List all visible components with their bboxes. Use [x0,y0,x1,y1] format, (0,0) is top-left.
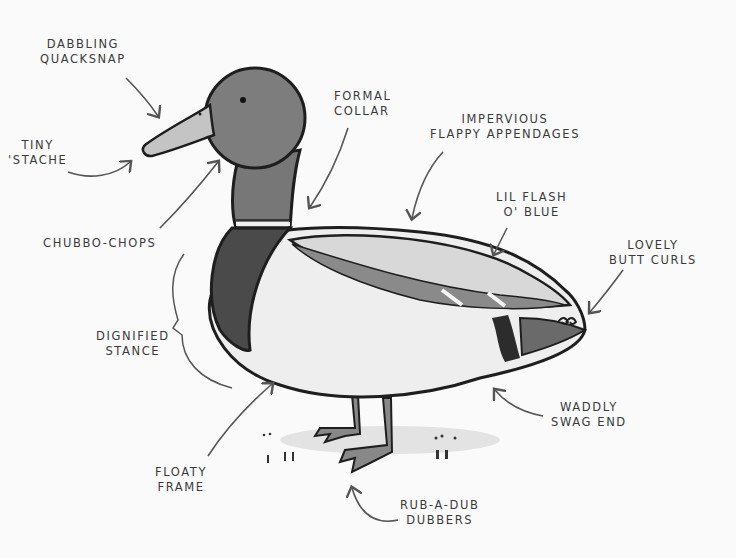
label-tail-curls: Lovely Butt Curls [609,238,697,268]
label-wings-line2: Flappy Appendages [430,127,580,142]
label-collar: Formal Collar [334,89,391,119]
label-belly-line1: Floaty [155,465,207,480]
arrow-wings [412,152,443,218]
label-tail-curls-line2: Butt Curls [609,253,697,268]
label-speculum-line2: O' Blue [496,205,567,220]
label-feet: Rub-A-Dub Dubbers [400,498,480,528]
label-tail-curls-line1: Lovely [609,238,697,253]
label-wings: Impervious Flappy Appendages [430,112,580,142]
label-rear-line1: Waddly [551,400,627,415]
arrow-tail-curls [590,270,623,312]
label-collar-line2: Collar [334,104,391,119]
label-belly: Floaty Frame [155,465,207,495]
label-rear: Waddly Swag End [551,400,627,430]
label-stance-line2: Stance [96,344,170,359]
label-wings-line1: Impervious [430,112,580,127]
label-collar-line1: Formal [334,89,391,104]
label-mustache-line2: 'Stache [8,153,67,168]
label-mustache-line1: Tiny [8,138,67,153]
label-mustache: Tiny 'Stache [8,138,67,168]
label-feet-line1: Rub-A-Dub [400,498,480,513]
label-bill: Dabbling Quacksnap [40,37,126,67]
head [143,68,305,228]
arrow-collar [310,128,348,207]
label-feet-line2: Dubbers [400,513,480,528]
arrow-belly [208,384,272,456]
label-rear-line2: Swag End [551,415,627,430]
arrow-rear [495,390,543,416]
label-speculum: Lil Flash O' Blue [496,190,567,220]
label-cheeks: Chubbo-Chops [43,236,156,251]
label-belly-line2: Frame [155,480,207,495]
duck-anatomy-diagram: Dabbling Quacksnap Tiny 'Stache Chubbo-C… [0,0,736,558]
label-stance-line1: Dignified [96,329,170,344]
arrow-bill [126,78,158,116]
label-bill-line1: Dabbling [40,37,126,52]
label-cheeks-line1: Chubbo-Chops [43,236,156,251]
arrow-feet [352,488,398,521]
body [209,228,585,397]
arrow-mustache [68,162,130,176]
label-stance: Dignified Stance [96,329,170,359]
duck-illustration [0,0,736,558]
label-bill-line2: Quacksnap [40,52,126,67]
arrow-cheeks [160,162,218,228]
label-speculum-line1: Lil Flash [496,190,567,205]
